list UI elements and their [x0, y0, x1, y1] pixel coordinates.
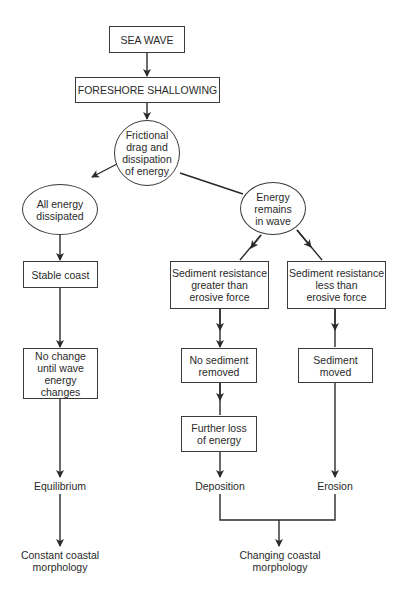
node-no-sediment-line1: No sediment	[190, 354, 249, 366]
node-sediment-resistance-greater: Sediment resistance greater than erosive…	[170, 261, 269, 309]
node-constant-line1: Constant coastal	[21, 549, 99, 561]
node-erosion-label: Erosion	[317, 480, 353, 492]
node-no-sediment-line2: removed	[199, 366, 240, 378]
node-sed-less-line1: Sediment resistance	[289, 267, 384, 279]
node-equilibrium-label: Equilibrium	[34, 480, 86, 492]
node-further-loss-line2: of energy	[197, 434, 241, 446]
node-all-dissipated-line2: dissipated	[36, 210, 83, 222]
node-further-loss-line1: Further loss	[191, 422, 246, 434]
node-deposition: Deposition	[180, 479, 260, 493]
node-equilibrium: Equilibrium	[20, 479, 100, 493]
node-stable-coast-label: Stable coast	[32, 269, 90, 281]
node-changing-line2: morphology	[253, 561, 308, 573]
node-frictional-line2: drag and	[126, 141, 167, 153]
node-sea-wave: SEA WAVE	[109, 26, 185, 53]
node-changing-line1: Changing coastal	[239, 549, 320, 561]
node-deposition-label: Deposition	[195, 480, 245, 492]
node-erosion: Erosion	[300, 479, 370, 493]
node-constant-coastal-morphology: Constant coastal morphology	[5, 548, 115, 574]
node-sed-less-line3: erosive force	[306, 291, 366, 303]
node-further-loss: Further loss of energy	[181, 416, 257, 452]
node-sed-greater-line1: Sediment resistance	[172, 267, 267, 279]
node-frictional-drag: Frictional drag and dissipation of energ…	[114, 120, 180, 186]
arrow-friction-to-all-dissipated	[92, 164, 117, 177]
node-sediment-resistance-less: Sediment resistance less than erosive fo…	[287, 261, 386, 309]
node-frictional-line1: Frictional	[126, 129, 169, 141]
line-friction-to-energy-remains	[180, 173, 243, 194]
node-energy-remains-line2: in wave	[255, 215, 291, 227]
node-frictional-line4: of energy	[125, 165, 169, 177]
node-all-dissipated-line1: All energy	[37, 198, 84, 210]
node-changing-coastal-morphology: Changing coastal morphology	[225, 548, 335, 574]
node-constant-line2: morphology	[33, 561, 88, 573]
node-sed-greater-line2: greater than	[191, 279, 248, 291]
node-all-energy-dissipated: All energy dissipated	[22, 184, 98, 235]
node-energy-remains-line1: Energy remains	[241, 191, 305, 215]
node-sed-less-line2: less than	[315, 279, 357, 291]
node-energy-remains: Energy remains in wave	[240, 182, 306, 235]
node-foreshore-label: FORESHORE SHALLOWING	[78, 84, 217, 96]
node-no-change-line1: No change	[35, 350, 86, 362]
node-sediment-moved: Sediment moved	[298, 348, 373, 383]
node-sea-wave-label: SEA WAVE	[120, 34, 173, 46]
node-foreshore-shallowing: FORESHORE SHALLOWING	[75, 77, 220, 103]
node-frictional-line3: dissipation	[122, 153, 172, 165]
node-no-change-line3: energy changes	[24, 374, 97, 398]
node-no-change: No change until wave energy changes	[23, 348, 98, 399]
node-no-change-line2: until wave	[37, 362, 84, 374]
node-sed-greater-line3: erosive force	[189, 291, 249, 303]
node-sediment-moved-line1: Sediment	[313, 354, 357, 366]
node-sediment-moved-line2: moved	[320, 366, 352, 378]
node-no-sediment-removed: No sediment removed	[181, 348, 257, 383]
line-deposition-erosion-junction	[220, 494, 335, 520]
node-stable-coast: Stable coast	[23, 261, 98, 288]
